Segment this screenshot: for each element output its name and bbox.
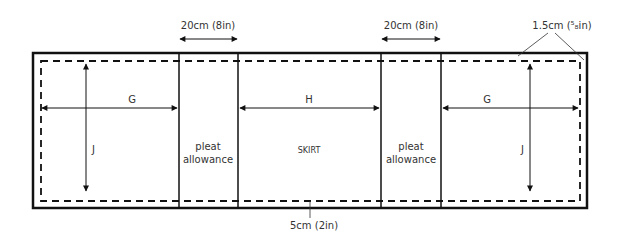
hem-label: 5cm (2in) [290, 220, 338, 231]
pleat-allowance-right-line1: pleat [398, 141, 423, 152]
height-label-j-right: J [520, 144, 524, 155]
pleat-allowance-left-line2: allowance [183, 154, 233, 165]
seam-allowance-label: 1.5cm (⁵₈in) [532, 20, 591, 31]
width-label-g-right: G [483, 94, 491, 105]
skirt-label: SKIRT [298, 146, 321, 155]
seam-line [41, 61, 580, 201]
pleat-dimension-label-2: 20cm (8in) [384, 20, 439, 31]
width-label-g-left: G [128, 94, 136, 105]
width-label-h: H [305, 94, 313, 105]
fabric-outline [33, 53, 587, 208]
skirt-layout-diagram: 20cm (8in) 20cm (8in) 1.5cm (⁵₈in) G J p… [0, 0, 619, 250]
height-label-j-left: J [91, 144, 95, 155]
pleat-allowance-left-line1: pleat [195, 141, 220, 152]
seam-leader-2 [555, 33, 584, 60]
pleat-allowance-right-line2: allowance [386, 154, 436, 165]
pleat-dimension-label-1: 20cm (8in) [181, 20, 236, 31]
